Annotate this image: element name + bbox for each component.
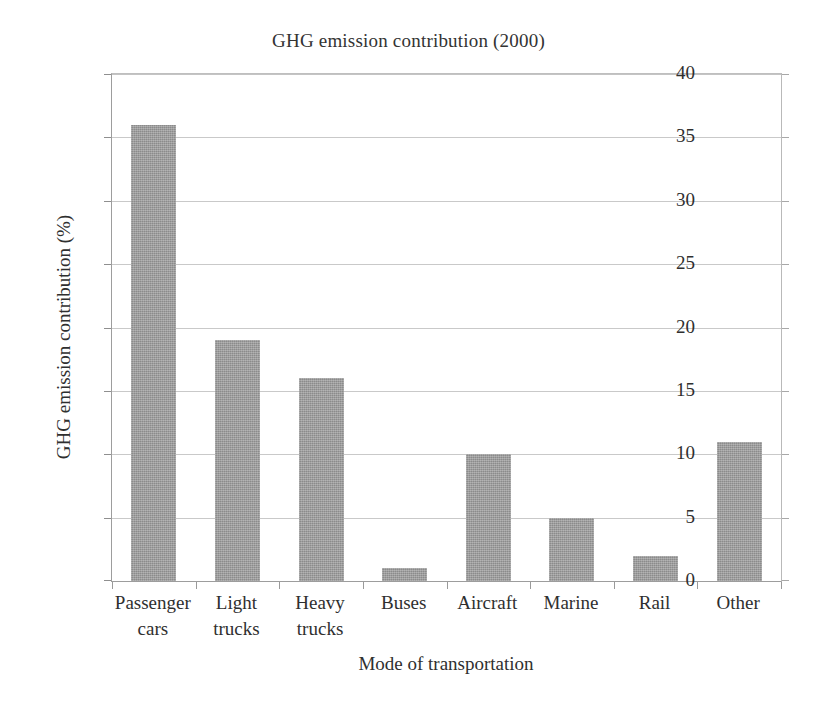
y-axis-tick-right <box>782 137 789 138</box>
x-axis-tick-label-line: trucks <box>278 616 362 642</box>
y-axis-title: GHG emission contribution (%) <box>53 87 75 587</box>
y-axis-tick-label: 25 <box>635 253 695 272</box>
x-axis-tick-label-line: Rail <box>613 590 697 616</box>
bar <box>466 454 511 581</box>
y-axis-tick-right <box>782 454 789 455</box>
chart-figure: GHG emission contribution (2000) GHG emi… <box>0 0 817 710</box>
x-axis-tick-label: Other <box>696 590 780 616</box>
y-axis-tick-label: 0 <box>635 570 695 589</box>
y-axis-tick-label: 10 <box>635 443 695 462</box>
x-axis-title: Mode of transportation <box>111 653 781 675</box>
bar <box>549 518 594 581</box>
x-axis-tick <box>697 582 698 589</box>
x-axis-tick-label-line: Light <box>195 590 279 616</box>
x-axis-tick <box>614 582 615 589</box>
x-axis-tick <box>196 582 197 589</box>
y-axis-tick-label: 40 <box>635 63 695 82</box>
x-axis-tick-label-line: Aircraft <box>446 590 530 616</box>
y-axis-tick-label: 30 <box>635 190 695 209</box>
y-axis-tick-label: 20 <box>635 317 695 336</box>
x-axis-tick-label-line: Passenger <box>111 590 195 616</box>
y-axis-tick <box>104 137 111 138</box>
y-axis-tick-right <box>782 580 789 581</box>
x-axis-tick <box>279 582 280 589</box>
x-axis-tick-label: Heavytrucks <box>278 590 362 642</box>
y-axis-tick <box>104 328 111 329</box>
y-axis-tick-label: 5 <box>635 507 695 526</box>
x-axis-tick-label: Marine <box>529 590 613 616</box>
x-axis-tick-label: Lighttrucks <box>195 590 279 642</box>
x-axis-tick <box>781 582 782 589</box>
y-axis-tick-label: 15 <box>635 380 695 399</box>
y-axis-tick <box>104 391 111 392</box>
y-axis-tick <box>104 264 111 265</box>
bar <box>717 442 762 581</box>
x-axis-tick-label: Aircraft <box>446 590 530 616</box>
y-axis-tick-right <box>782 518 789 519</box>
y-axis-tick-right <box>782 328 789 329</box>
bar <box>382 568 427 581</box>
x-axis-tick-label-line: Marine <box>529 590 613 616</box>
y-axis-tick <box>104 518 111 519</box>
y-axis-tick-right <box>782 391 789 392</box>
bar <box>299 378 344 581</box>
x-axis-tick-label: Rail <box>613 590 697 616</box>
bar <box>131 125 176 581</box>
x-axis-tick <box>363 582 364 589</box>
chart-title: GHG emission contribution (2000) <box>0 30 817 52</box>
y-axis-tick-right <box>782 74 789 75</box>
x-axis-tick-label-line: Other <box>696 590 780 616</box>
x-axis-tick <box>530 582 531 589</box>
y-axis-tick-right <box>782 264 789 265</box>
x-axis-tick-label-line: Buses <box>362 590 446 616</box>
x-axis-tick-label-line: cars <box>111 616 195 642</box>
y-axis-tick <box>104 201 111 202</box>
y-axis-tick <box>104 74 111 75</box>
x-axis-tick-label-line: Heavy <box>278 590 362 616</box>
bar <box>215 340 260 581</box>
x-axis-tick <box>112 582 113 589</box>
x-axis-tick-label-line: trucks <box>195 616 279 642</box>
x-axis-tick <box>447 582 448 589</box>
y-axis-tick-label: 35 <box>635 126 695 145</box>
y-axis-tick-right <box>782 201 789 202</box>
x-axis-tick-label: Passengercars <box>111 590 195 642</box>
y-axis-tick <box>104 454 111 455</box>
y-axis-tick <box>104 580 111 581</box>
x-axis-tick-label: Buses <box>362 590 446 616</box>
